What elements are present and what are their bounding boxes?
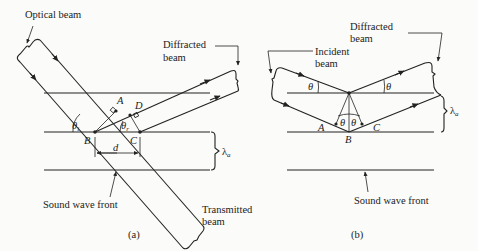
theta-r-label: θr (121, 120, 129, 133)
point-d-dot (128, 113, 131, 116)
theta-label: θ (308, 81, 313, 92)
panel-b-caption: (b) (351, 229, 364, 241)
point-c-dot (360, 122, 363, 125)
point-a-dot (114, 109, 117, 112)
theta-label: θ (340, 117, 345, 128)
point-c-label: C (373, 122, 381, 133)
point-d-label: D (134, 100, 143, 111)
distance-d-label: d (113, 142, 119, 153)
transmitted-beam-label-2: beam (202, 216, 225, 227)
incident-beam-label: Incident (315, 46, 349, 57)
diffracted-beam-label-2: beam (350, 33, 373, 44)
acousto-optic-diffraction-diagram: Optical beam Diffracted beam Transmitted… (0, 0, 478, 251)
point-a-label: A (116, 95, 124, 106)
wavelength-brace (211, 132, 219, 170)
theta-label: θ (386, 81, 391, 92)
wavelength-label: λa (450, 105, 459, 118)
diffracted-beam-label: Diffracted (163, 39, 207, 50)
wavelength-label: λa (222, 146, 231, 159)
transmitted-beam-label: Transmitted (202, 204, 253, 215)
optical-beam-label: Optical beam (25, 9, 81, 20)
sound-wave-front-label: Sound wave front (354, 195, 429, 206)
point-a-label: A (317, 122, 325, 133)
incident-beam (272, 68, 349, 132)
apex-dot (347, 91, 351, 95)
panel-b: Diffracted beam Incident beam Sound wave… (268, 21, 459, 241)
point-b-dot (93, 130, 97, 134)
wavelength-brace (441, 96, 447, 132)
panel-a-caption: (a) (128, 229, 140, 241)
point-a-dot (334, 122, 337, 125)
diffracted-beam-label: Diffracted (350, 21, 394, 32)
diffracted-beam (349, 62, 441, 132)
panel-a: Optical beam Diffracted beam Transmitted… (17, 9, 253, 249)
point-c-label: C (130, 135, 138, 146)
point-b-label: B (345, 134, 352, 145)
sound-wave-front-label: Sound wave front (43, 199, 118, 210)
incident-beam-label-2: beam (315, 58, 338, 69)
diffracted-beam-label-2: beam (163, 52, 186, 63)
point-b-label: B (84, 135, 91, 146)
optical-beam (17, 39, 204, 248)
point-c-dot (138, 130, 142, 134)
theta-label: θ (351, 117, 356, 128)
